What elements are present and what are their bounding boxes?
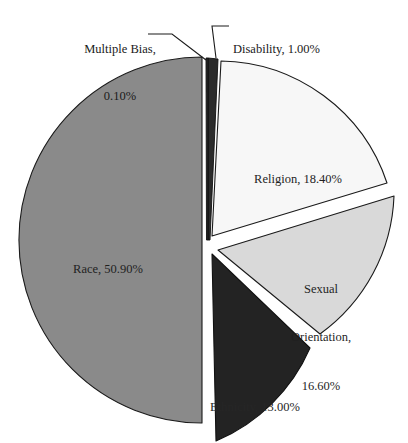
race-label-text: Race, 50.90% bbox=[48, 261, 168, 277]
sexual-orientation-label-line1: Sexual bbox=[266, 281, 376, 297]
slice-callout-multiple-bias: Multiple Bias, 0.10% bbox=[60, 11, 180, 136]
disability-label-text: Disability, 1.00% bbox=[233, 42, 320, 58]
multiple-bias-label-line1: Multiple Bias, bbox=[60, 42, 180, 58]
slice-label-ethnicity: Ethnicity, 13.00% bbox=[200, 366, 310, 443]
multiple-bias-label-line2: 0.10% bbox=[60, 89, 180, 105]
ethnicity-label-text: Ethnicity, 13.00% bbox=[200, 399, 310, 415]
slice-label-race: Race, 50.90% bbox=[48, 228, 168, 309]
leader-line-disability bbox=[212, 26, 229, 58]
slice-label-religion: Religion, 18.40% bbox=[238, 138, 358, 219]
sexual-orientation-label-line2: Orientation, bbox=[266, 329, 376, 345]
pie-chart: Multiple Bias, 0.10% Disability, 1.00% R… bbox=[0, 0, 408, 443]
slice-callout-disability: Disability, 1.00% bbox=[233, 11, 320, 89]
pie-slice-multiple-bias[interactable] bbox=[206, 58, 208, 240]
religion-label-text: Religion, 18.40% bbox=[238, 171, 358, 187]
